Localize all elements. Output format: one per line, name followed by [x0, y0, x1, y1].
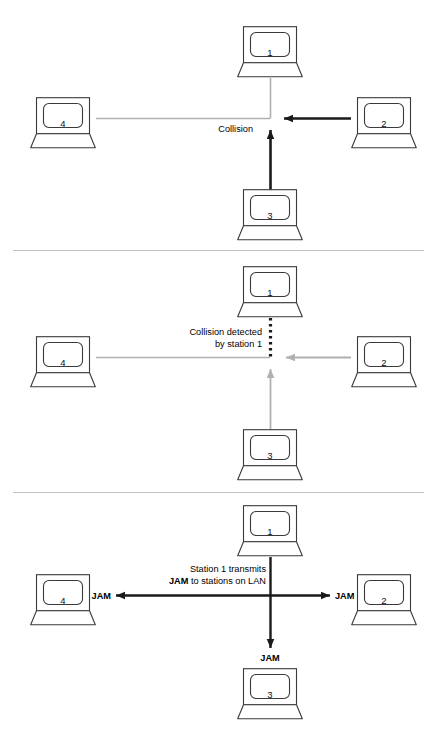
- station-1[interactable]: 1: [238, 27, 303, 77]
- station-4-number: 4: [60, 357, 65, 368]
- station-4-number: 4: [60, 595, 65, 606]
- station-2-number: 2: [381, 357, 386, 368]
- station-3[interactable]: 3: [238, 669, 303, 719]
- station-1-number: 1: [267, 526, 272, 537]
- station-2[interactable]: 2: [352, 98, 417, 148]
- jam-label-right: JAM: [335, 591, 355, 601]
- collision-detected-label-line1: Collision detected: [189, 327, 262, 337]
- jam-caption-rest: to stations on LAN: [188, 576, 266, 586]
- station-2[interactable]: 2: [352, 575, 417, 625]
- station-1-number: 1: [267, 47, 272, 58]
- panel-collision: 1 4 2 3 Collision: [31, 27, 417, 240]
- collision-label: Collision: [218, 124, 253, 134]
- jam-label-left: JAM: [92, 591, 112, 601]
- station-3-number: 3: [267, 450, 272, 461]
- station-4[interactable]: 4: [31, 337, 96, 387]
- station-3-number: 3: [267, 689, 272, 700]
- station-2-number: 2: [381, 595, 386, 606]
- station-1[interactable]: 1: [238, 506, 303, 556]
- jam-caption-line2: JAM to stations on LAN: [169, 576, 266, 586]
- station-1-number: 1: [267, 287, 272, 298]
- jam-label-bottom: JAM: [260, 653, 280, 663]
- panel-jam: 1 4 2 3 JAM JAM JAM Station 1 transm: [31, 506, 417, 719]
- collision-detected-label-line2: by station 1: [215, 339, 262, 349]
- station-3[interactable]: 3: [238, 190, 303, 240]
- jam-caption-line1: Station 1 transmits: [190, 564, 266, 574]
- station-3-number: 3: [267, 210, 272, 221]
- diagram-canvas: 1 4 2 3 Collision: [0, 0, 437, 739]
- station-2-number: 2: [381, 118, 386, 129]
- station-4[interactable]: 4: [31, 575, 96, 625]
- station-2[interactable]: 2: [352, 337, 417, 387]
- station-3[interactable]: 3: [238, 430, 303, 480]
- station-4-number: 4: [60, 118, 65, 129]
- panel-detected: 1 4 2 3 Collision detected by station 1: [31, 267, 417, 480]
- station-1[interactable]: 1: [238, 267, 303, 317]
- jam-caption-bold: JAM: [169, 576, 189, 586]
- station-4[interactable]: 4: [31, 98, 96, 148]
- network-diagram-figure: 1 4 2 3 Collision: [0, 0, 437, 739]
